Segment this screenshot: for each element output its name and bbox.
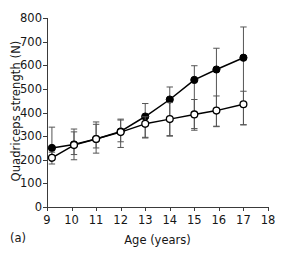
y-tick-label: 700: [20, 35, 42, 49]
y-tick-label: 200: [20, 153, 42, 167]
data-point-open: [240, 101, 247, 108]
x-tick: [47, 207, 48, 211]
y-tick-label: 300: [20, 129, 42, 143]
x-tick-label: 16: [212, 213, 227, 227]
x-tick-label: 10: [64, 213, 79, 227]
x-tick: [145, 207, 146, 211]
data-point-open: [213, 107, 220, 114]
x-tick: [72, 207, 73, 211]
x-tick-label: 15: [187, 213, 202, 227]
x-tick: [170, 207, 171, 211]
data-point-open: [71, 142, 78, 149]
series-open-circles: [49, 91, 247, 164]
data-point-filled: [48, 144, 55, 151]
data-point-filled: [240, 54, 247, 61]
y-tick-label: 500: [20, 82, 42, 96]
panel-caption: (a): [10, 231, 26, 245]
data-point-open: [117, 129, 124, 136]
figure-panel-a: Quadriceps strength (N) 0100200300400500…: [0, 0, 285, 257]
data-point-open: [166, 116, 173, 123]
x-tick: [243, 207, 244, 211]
x-tick-label: 11: [89, 213, 104, 227]
x-tick: [268, 207, 269, 211]
x-tick-label: 14: [162, 213, 177, 227]
x-tick-label: 13: [138, 213, 153, 227]
y-tick-label: 800: [20, 11, 42, 25]
data-point-open: [93, 136, 100, 143]
x-tick-label: 9: [43, 213, 50, 227]
x-tick-label: 17: [236, 213, 251, 227]
data-series-layer: [47, 18, 268, 207]
data-point-open: [49, 154, 56, 161]
y-tick-label: 0: [35, 200, 42, 214]
data-point-open: [191, 111, 198, 118]
y-tick-label: 400: [20, 106, 42, 120]
x-tick: [219, 207, 220, 211]
data-point-open: [142, 120, 149, 127]
y-tick-label: 100: [20, 176, 42, 190]
series-filled-circles: [48, 27, 247, 159]
data-point-filled: [166, 96, 173, 103]
x-tick: [96, 207, 97, 211]
x-tick-label: 12: [113, 213, 128, 227]
data-point-filled: [213, 66, 220, 73]
x-tick: [121, 207, 122, 211]
x-tick: [194, 207, 195, 211]
x-tick-label: 18: [261, 213, 276, 227]
plot-area: 0100200300400500600700800 91011121314151…: [47, 18, 268, 207]
x-axis-title: Age (years): [47, 233, 268, 247]
y-tick-label: 600: [20, 58, 42, 72]
x-axis-line: [47, 207, 268, 208]
data-point-filled: [191, 76, 198, 83]
